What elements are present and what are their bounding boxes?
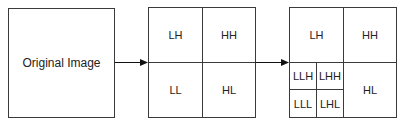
level2-lhh-label: LHH xyxy=(316,62,344,90)
original-image-label: Original Image xyxy=(8,8,115,118)
level1-hl-label: HL xyxy=(202,62,256,118)
level2-hh-label: HH xyxy=(343,7,397,62)
level2-hl-label: HL xyxy=(343,62,397,118)
level1-hh-label: HH xyxy=(202,7,256,62)
level2-llh-label: LLH xyxy=(289,62,317,90)
level1-ll-label: LL xyxy=(148,62,203,118)
level2-lhl-label: LHL xyxy=(316,89,344,118)
level2-lll-label: LLL xyxy=(289,89,317,118)
level1-lh-label: LH xyxy=(148,7,203,62)
level2-lh-label: LH xyxy=(289,7,344,62)
